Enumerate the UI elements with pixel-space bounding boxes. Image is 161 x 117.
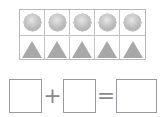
- circle-icon: [124, 14, 141, 31]
- grid-cell: [70, 36, 95, 59]
- grid-cell: [20, 10, 45, 36]
- grid-cell: [120, 36, 145, 59]
- triangle-icon: [97, 41, 117, 58]
- grid-cell: [95, 36, 120, 59]
- circle-icon: [24, 14, 41, 31]
- circle-icon: [49, 14, 66, 31]
- triangle-icon: [47, 41, 67, 58]
- equals-operator: =: [97, 79, 115, 113]
- circle-icon: [74, 14, 91, 31]
- plus-operator: +: [44, 79, 61, 113]
- grid-cell: [45, 36, 70, 59]
- grid-cell: [120, 10, 145, 36]
- triangle-icon: [72, 41, 92, 58]
- triangle-icon: [22, 41, 42, 58]
- grid-cell: [95, 10, 120, 36]
- shape-grid: [19, 9, 146, 60]
- grid-cell: [70, 10, 95, 36]
- grid-cell: [45, 10, 70, 36]
- grid-cell: [20, 36, 45, 59]
- answer-box-2[interactable]: [63, 79, 96, 113]
- triangle-icon: [123, 41, 143, 58]
- answer-box-3[interactable]: [116, 79, 157, 113]
- answer-box-1[interactable]: [9, 79, 42, 113]
- circle-icon: [99, 14, 116, 31]
